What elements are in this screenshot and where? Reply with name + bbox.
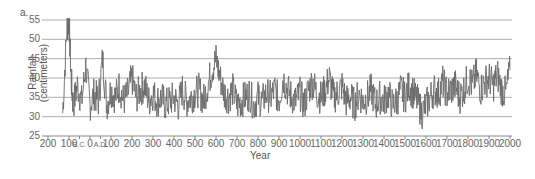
x-axis-label: Year: [250, 150, 270, 161]
rainfall-series-line: [63, 18, 510, 129]
